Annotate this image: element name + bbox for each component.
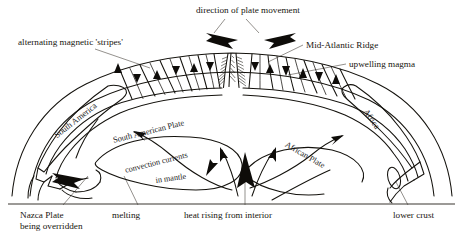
label-nazca-plate-being-overridden: Nazca Plate being overridden — [20, 210, 83, 231]
nazca-plate-line1: Nazca Plate — [20, 210, 83, 221]
diagram-canvas: .s{fill:none;stroke:#14120d;stroke-width… — [0, 0, 465, 241]
mid-atlantic-ridge-crest — [219, 53, 247, 87]
crust-lower-boundary — [30, 72, 434, 196]
label-heat-rising-from-interior: heat rising from interior — [184, 210, 272, 221]
africa-continent — [342, 85, 424, 202]
nazca-plate-line2: being overridden — [20, 221, 83, 232]
label-melting: melting — [112, 210, 140, 221]
plate-movement-arrow-left — [206, 33, 238, 49]
magnetic-polarity-triangles-left — [133, 62, 214, 83]
convection-flow-arrows — [133, 131, 344, 200]
label-alternating-magnetic-stripes: alternating magnetic 'stripes' — [18, 37, 123, 48]
label-upwelling-magma: upwelling magma — [349, 59, 415, 70]
magnetic-polarity-triangle-far-left — [114, 63, 122, 73]
label-mid-atlantic-ridge: Mid-Atlantic Ridge — [306, 40, 378, 51]
plate-movement-arrow-right — [264, 33, 296, 49]
label-direction-of-plate-movement: direction of plate movement — [196, 5, 300, 16]
label-lower-crust: lower crust — [393, 210, 434, 221]
